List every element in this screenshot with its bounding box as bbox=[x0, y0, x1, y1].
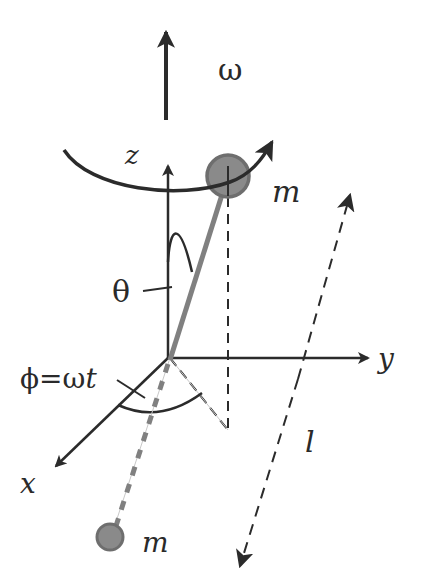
length-label: l bbox=[305, 424, 315, 459]
omega-label: ω bbox=[218, 52, 242, 87]
lower-rod-dashed bbox=[116, 364, 168, 526]
theta-label: θ bbox=[112, 274, 130, 309]
z-axis-label: z bbox=[124, 140, 139, 170]
lower-mass bbox=[97, 524, 123, 550]
upper-mass-label: m bbox=[272, 174, 300, 209]
y-axis-label: y bbox=[376, 342, 395, 375]
lower-mass-label: m bbox=[142, 526, 169, 559]
rod bbox=[170, 182, 226, 360]
phi-label: ϕ=ωt bbox=[20, 362, 97, 395]
rotating-dumbbell-diagram: ω z y x ϕ=ωt m θ m l bbox=[0, 0, 424, 579]
x-axis-label: x bbox=[20, 467, 36, 500]
phi-arc bbox=[118, 393, 202, 412]
theta-arc bbox=[168, 234, 192, 272]
length-arrow bbox=[240, 195, 350, 566]
